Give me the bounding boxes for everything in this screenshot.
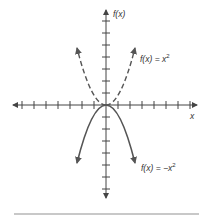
x-axis-label: x xyxy=(189,111,195,121)
divider-line xyxy=(14,213,199,215)
y-axis-label: f(x) xyxy=(113,9,125,19)
curve-x-squared-right xyxy=(106,48,135,105)
curve-neg-x-squared xyxy=(77,105,106,163)
curve-x-squared xyxy=(77,48,106,105)
label-x-squared: f(x) = x2 xyxy=(140,53,170,64)
curve-neg-x-squared-right xyxy=(106,105,135,163)
parabola-graph: f(x) x f(x) = x2 f(x) = −x2 xyxy=(0,0,209,219)
label-neg-x-squared: f(x) = −x2 xyxy=(141,162,176,173)
